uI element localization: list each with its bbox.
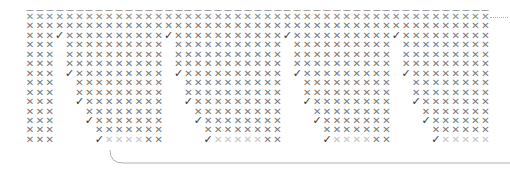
cross-icon: ✕ <box>213 135 223 145</box>
cross-icon: ✕ <box>480 135 490 145</box>
cross-icon: ✕ <box>114 135 124 145</box>
cross-icon: ✕ <box>381 135 391 145</box>
cross-icon: ✕ <box>154 135 164 145</box>
cross-icon: ✕ <box>45 135 55 145</box>
cross-icon: ✕ <box>223 135 233 145</box>
cross-icon: ✕ <box>144 135 154 145</box>
check-icon: ✓ <box>312 116 322 126</box>
cross-icon: ✕ <box>243 135 253 145</box>
cross-icon: ✕ <box>134 135 144 145</box>
cross-icon: ✕ <box>273 135 283 145</box>
cross-icon: ✕ <box>263 135 273 145</box>
cross-icon: ✕ <box>124 135 134 145</box>
check-icon: ✓ <box>94 135 104 145</box>
check-icon: ✓ <box>84 116 94 126</box>
check-icon: ✓ <box>164 31 174 41</box>
dotted-leader-line <box>490 17 508 18</box>
cross-icon: ✕ <box>332 135 342 145</box>
check-icon: ✓ <box>75 97 85 107</box>
check-icon: ✓ <box>203 135 213 145</box>
check-icon: ✓ <box>193 116 203 126</box>
cross-icon: ✕ <box>35 135 45 145</box>
cross-icon: ✕ <box>362 135 372 145</box>
check-icon: ✓ <box>55 31 65 41</box>
check-icon: ✓ <box>411 97 421 107</box>
check-icon: ✓ <box>65 69 75 79</box>
cross-icon: ✕ <box>352 135 362 145</box>
cross-icon: ✕ <box>253 135 263 145</box>
check-icon: ✓ <box>391 31 401 41</box>
check-icon: ✓ <box>282 31 292 41</box>
check-icon: ✓ <box>174 69 184 79</box>
check-icon: ✓ <box>401 69 411 79</box>
check-icon: ✓ <box>431 135 441 145</box>
check-icon: ✓ <box>421 116 431 126</box>
check-icon: ✓ <box>302 97 312 107</box>
cross-icon: ✕ <box>342 135 352 145</box>
cross-icon: ✕ <box>233 135 243 145</box>
check-icon: ✓ <box>292 69 302 79</box>
check-icon: ✓ <box>322 135 332 145</box>
cross-check-grid: ✕✕✕✕✕✕✕✕✕✕✕✕✕✕✕✕✕✕✕✕✕✕✕✕✕✕✕✕✕✕✕✕✕✕✕✕✕✕✕✕… <box>0 0 510 172</box>
check-icon: ✓ <box>183 97 193 107</box>
bracket-curve-line <box>109 150 510 164</box>
cross-icon: ✕ <box>461 135 471 145</box>
cross-icon: ✕ <box>104 135 114 145</box>
cross-icon: ✕ <box>25 135 35 145</box>
cross-icon: ✕ <box>441 135 451 145</box>
cross-icon: ✕ <box>372 135 382 145</box>
cross-icon: ✕ <box>471 135 481 145</box>
cross-icon: ✕ <box>451 135 461 145</box>
